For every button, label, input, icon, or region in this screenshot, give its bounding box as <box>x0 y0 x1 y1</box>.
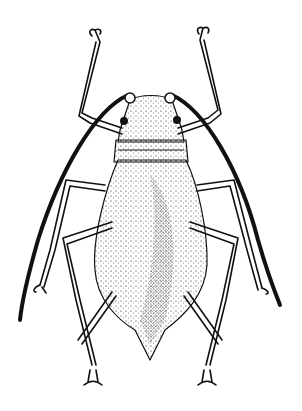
left-eye <box>120 117 128 125</box>
left-antenna-base <box>125 93 135 103</box>
right-antenna-base <box>165 93 175 103</box>
illustration-canvas: aphid <box>0 0 302 411</box>
aphid-illustration <box>0 0 302 411</box>
thorax <box>114 140 188 162</box>
abdomen <box>95 160 208 360</box>
right-eye <box>173 116 181 124</box>
